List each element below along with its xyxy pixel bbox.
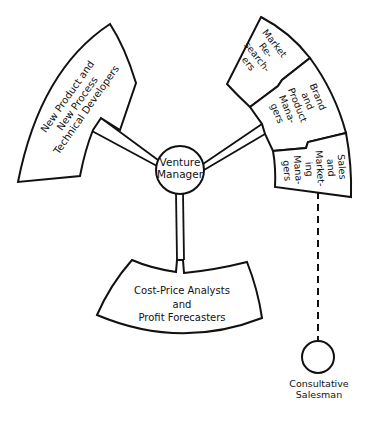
- consultative-salesman-node: [302, 341, 334, 373]
- connector-cost-price: [176, 193, 184, 260]
- diagram-shapes: [0, 0, 368, 425]
- label-line: Venture: [152, 156, 208, 168]
- venture-manager-label: Venture Manager: [152, 156, 208, 180]
- label-line: and: [110, 298, 254, 312]
- connector-marketing-group: [203, 124, 265, 170]
- consultative-salesman-label: Consultative Salesman: [278, 379, 360, 401]
- connector-technical: [92, 118, 158, 166]
- label-line: Salesman: [278, 390, 360, 401]
- label-line: Profit Forecasters: [110, 311, 254, 325]
- label-line: Cost-Price Analysts: [110, 284, 254, 298]
- cost-price-analysts-label: Cost-Price Analysts and Profit Forecaste…: [110, 284, 254, 325]
- venture-team-diagram: Venture Manager New Product and New Proc…: [0, 0, 368, 425]
- sales-marketing-managers-label: Sales and Market- ing Mana- gers: [279, 137, 349, 201]
- label-line: Manager: [152, 168, 208, 180]
